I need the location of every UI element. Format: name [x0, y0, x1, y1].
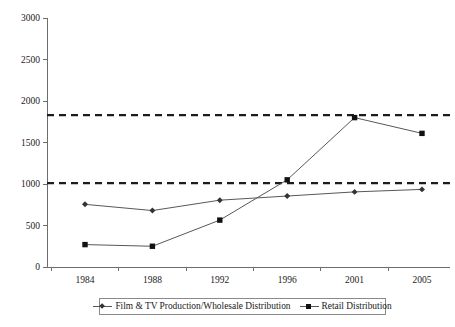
chart-legend: Film & TV Production/Wholesale Distribut…: [99, 298, 386, 315]
data-point-marker[interactable]: [419, 131, 424, 136]
x-axis-tick-labels: 198419881992199620012005: [76, 275, 432, 285]
line-chart: 050010001500200025003000 198419881992199…: [0, 0, 455, 327]
y-tick-label: 500: [26, 221, 41, 231]
data-series-layer: [82, 115, 425, 249]
legend-label-retail: Retail Distribution: [322, 302, 392, 311]
data-point-marker[interactable]: [82, 242, 87, 247]
x-tick-label: 1984: [76, 275, 95, 285]
data-point-marker[interactable]: [285, 177, 290, 182]
data-point-marker[interactable]: [82, 201, 88, 207]
data-point-marker[interactable]: [149, 208, 155, 214]
data-point-marker[interactable]: [284, 193, 290, 199]
legend-entry-film-tv[interactable]: Film & TV Production/Wholesale Distribut…: [93, 302, 290, 311]
x-axis-ticks: [51, 267, 388, 271]
data-point-marker[interactable]: [352, 115, 357, 120]
y-tick-label: 3000: [21, 13, 40, 23]
y-tick-label: 0: [35, 262, 40, 272]
series-retail: [82, 115, 424, 249]
y-tick-label: 1500: [21, 138, 40, 148]
y-tick-label: 2500: [21, 55, 40, 65]
x-tick-label: 2005: [413, 275, 432, 285]
legend-label-film-tv: Film & TV Production/Wholesale Distribut…: [115, 302, 290, 311]
square-marker-icon: [300, 302, 319, 311]
x-tick-label: 2001: [345, 275, 364, 285]
series-line: [85, 118, 422, 247]
chart-canvas: 050010001500200025003000 198419881992199…: [0, 0, 455, 327]
y-axis-ticks: [43, 18, 47, 267]
legend-entry-retail[interactable]: Retail Distribution: [300, 302, 392, 311]
data-point-marker[interactable]: [217, 217, 222, 222]
data-point-marker[interactable]: [352, 189, 358, 195]
diamond-marker-icon: [93, 302, 112, 311]
y-axis-tick-labels: 050010001500200025003000: [21, 13, 40, 272]
x-tick-label: 1988: [143, 275, 162, 285]
x-tick-label: 1996: [278, 275, 297, 285]
y-tick-label: 2000: [21, 96, 40, 106]
x-tick-label: 1992: [210, 275, 229, 285]
data-point-marker[interactable]: [217, 197, 223, 203]
data-point-marker[interactable]: [419, 186, 425, 192]
y-tick-label: 1000: [21, 179, 40, 189]
data-point-marker[interactable]: [150, 244, 155, 249]
